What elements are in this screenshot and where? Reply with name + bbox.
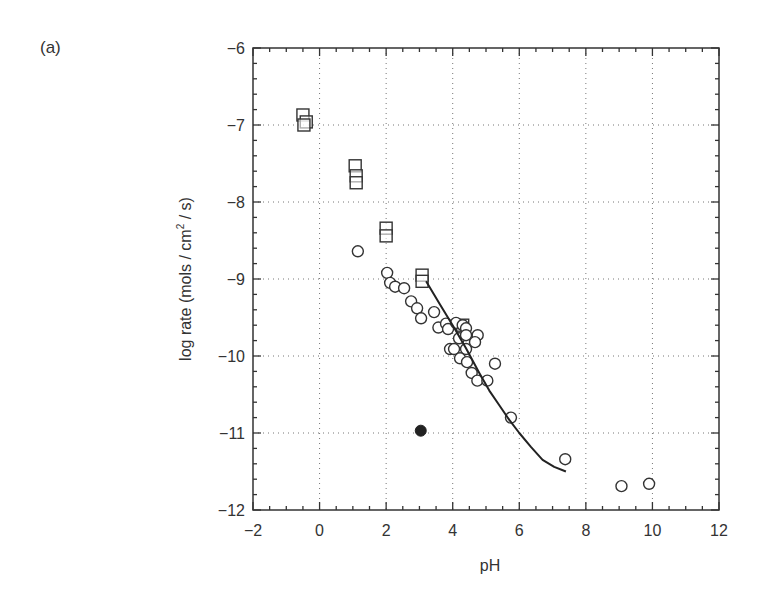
x-tick-label: 12	[710, 522, 728, 539]
series-filled-circle	[415, 425, 426, 436]
x-axis-label: pH	[480, 557, 500, 575]
x-tick-label: −2	[244, 522, 262, 539]
circle-marker	[489, 358, 500, 369]
data-series	[297, 109, 655, 492]
y-tick-label: −6	[227, 40, 245, 57]
circle-marker	[382, 267, 393, 278]
circle-marker	[644, 478, 655, 489]
series-open-squares	[297, 109, 469, 331]
tick-labels: −2024681012−12−11−10−9−8−7−6	[218, 40, 728, 539]
scatter-chart: −2024681012−12−11−10−9−8−7−6	[0, 0, 759, 601]
circle-marker	[416, 313, 427, 324]
series-fit-curve	[426, 281, 566, 471]
y-tick-label: −8	[227, 194, 245, 211]
axis-ticks	[253, 48, 719, 510]
x-tick-label: 8	[581, 522, 590, 539]
square-marker	[298, 119, 310, 131]
x-tick-label: 6	[515, 522, 524, 539]
square-marker	[350, 177, 362, 189]
x-tick-label: 4	[448, 522, 457, 539]
plot-frame	[253, 48, 719, 510]
circle-marker	[352, 246, 363, 257]
circle-marker	[429, 307, 440, 318]
circle-marker	[399, 283, 410, 294]
y-axis-label: log rate (mols / cm2 / s)	[175, 197, 194, 361]
y-tick-label: −7	[227, 117, 245, 134]
circle-marker	[616, 481, 627, 492]
y-tick-label: −9	[227, 271, 245, 288]
x-tick-label: 0	[315, 522, 324, 539]
grid-lines	[253, 48, 719, 510]
y-tick-label: −11	[219, 425, 245, 442]
x-tick-label: 2	[382, 522, 391, 539]
x-tick-label: 10	[644, 522, 662, 539]
square-marker	[380, 230, 392, 242]
circle-marker	[560, 454, 571, 465]
y-tick-label: −10	[218, 348, 245, 365]
fit-curve-line	[426, 281, 566, 471]
y-tick-label: −12	[218, 502, 245, 519]
filled-circle-marker	[415, 425, 426, 436]
series-open-circles	[352, 246, 654, 492]
